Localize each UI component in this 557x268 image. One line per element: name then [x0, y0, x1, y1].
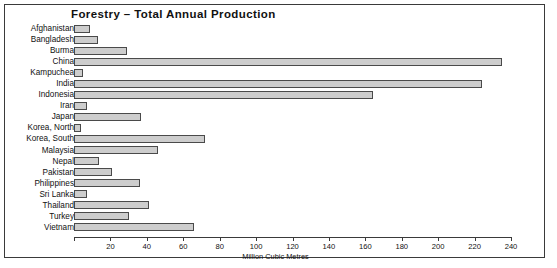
- bar: [74, 201, 149, 209]
- plot-area: AfghanistanBangladeshBurmaChinaKampuchea…: [5, 23, 546, 237]
- x-tick: [147, 237, 148, 241]
- x-tick: [256, 237, 257, 241]
- category-label: Korea, North: [0, 122, 74, 133]
- category-label: Malaysia: [0, 145, 74, 156]
- bar-row: Thailand: [5, 200, 546, 211]
- bar-row: Burma: [5, 45, 546, 56]
- bar-row: China: [5, 56, 546, 67]
- x-tick-label: 80: [205, 242, 235, 251]
- x-tick-label: 40: [132, 242, 162, 251]
- bar-row: Iran: [5, 100, 546, 111]
- category-label: Bangladesh: [0, 34, 74, 45]
- bar-row: Malaysia: [5, 145, 546, 156]
- x-tick-label: 180: [387, 242, 417, 251]
- bar-row: Vietnam: [5, 222, 546, 233]
- bar-row: Afghanistan: [5, 23, 546, 34]
- x-tick: [183, 237, 184, 241]
- chart-title: Forestry – Total Annual Production: [71, 8, 276, 20]
- x-tick: [293, 237, 294, 241]
- bar-row: Turkey: [5, 211, 546, 222]
- category-label: Nepal: [0, 156, 74, 167]
- chart-figure: Forestry – Total Annual Production Afgha…: [4, 4, 545, 258]
- x-tick-label: 220: [460, 242, 490, 251]
- category-label: India: [0, 78, 74, 89]
- bar: [74, 168, 112, 176]
- x-tick: [329, 237, 330, 241]
- bar-row: Pakistan: [5, 167, 546, 178]
- bar: [74, 223, 194, 231]
- bar-row: Indonesia: [5, 89, 546, 100]
- x-tick: [438, 237, 439, 241]
- category-label: Pakistan: [0, 167, 74, 178]
- x-axis-label: Million Cubic Metres: [5, 252, 546, 261]
- category-label: Afghanistan: [0, 23, 74, 34]
- x-tick-label: 60: [168, 242, 198, 251]
- x-tick-label: 160: [350, 242, 380, 251]
- bar: [74, 124, 81, 132]
- bar: [74, 190, 87, 198]
- bar: [74, 69, 83, 77]
- bar: [74, 80, 482, 88]
- bar: [74, 47, 127, 55]
- category-label: China: [0, 56, 74, 67]
- bar-row: Bangladesh: [5, 34, 546, 45]
- category-label: Vietnam: [0, 222, 74, 233]
- bar: [74, 157, 99, 165]
- x-tick: [402, 237, 403, 241]
- category-label: Japan: [0, 111, 74, 122]
- x-tick-label: 200: [423, 242, 453, 251]
- x-tick-label: 240: [496, 242, 526, 251]
- x-tick-label: 20: [95, 242, 125, 251]
- bar: [74, 212, 129, 220]
- x-tick: [365, 237, 366, 241]
- x-tick-label: 100: [241, 242, 271, 251]
- x-tick: [475, 237, 476, 241]
- bar-row: India: [5, 78, 546, 89]
- bar-row: Sri Lanka: [5, 189, 546, 200]
- bar: [74, 179, 140, 187]
- category-label: Sri Lanka: [0, 189, 74, 200]
- category-label: Thailand: [0, 200, 74, 211]
- bar: [74, 36, 98, 44]
- bar: [74, 58, 502, 66]
- x-tick-label: 120: [278, 242, 308, 251]
- bar-row: Kampuchea: [5, 67, 546, 78]
- bar: [74, 135, 205, 143]
- bar: [74, 25, 90, 33]
- category-label: Kampuchea: [0, 67, 74, 78]
- category-label: Iran: [0, 100, 74, 111]
- bar-row: Japan: [5, 111, 546, 122]
- bar: [74, 146, 158, 154]
- bar: [74, 102, 87, 110]
- category-label: Indonesia: [0, 89, 74, 100]
- x-tick-label: 140: [314, 242, 344, 251]
- bar-row: Korea, North: [5, 122, 546, 133]
- x-tick: [220, 237, 221, 241]
- bar-row: Korea, South: [5, 133, 546, 144]
- x-tick: [110, 237, 111, 241]
- bar: [74, 91, 373, 99]
- bar-row: Nepal: [5, 156, 546, 167]
- bar: [74, 113, 141, 121]
- bar-row: Philippines: [5, 178, 546, 189]
- category-label: Philippines: [0, 178, 74, 189]
- x-tick: [511, 237, 512, 241]
- category-label: Turkey: [0, 211, 74, 222]
- category-label: Korea, South: [0, 133, 74, 144]
- category-label: Burma: [0, 45, 74, 56]
- x-tick: [74, 237, 75, 241]
